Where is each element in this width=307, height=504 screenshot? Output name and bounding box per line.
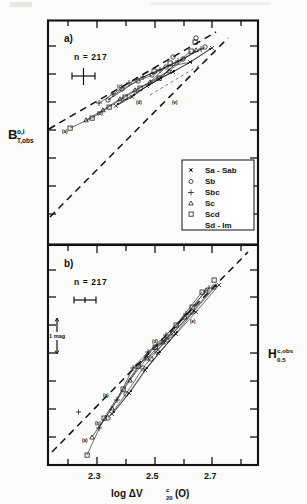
panel-b-right-ticks <box>250 270 258 437</box>
panel-a-ylabel-sup: o,i <box>17 128 25 136</box>
panel-a-label-a: (a) <box>62 129 68 134</box>
panel-a-ylabel: B o,i T,obs <box>8 127 34 145</box>
panel-b-point-labels: (a) (b) (c) (d) (e) <box>82 319 196 443</box>
panel-a-label-e: (e) <box>172 100 178 105</box>
scan-artifact <box>10 2 32 7</box>
panel-b-n-label: n = 217 <box>74 277 107 287</box>
legend-label-scd: Scd <box>205 210 220 219</box>
panel-a-upper-dashed-line <box>49 32 216 129</box>
x-axis-label-sub: 20 <box>166 495 173 501</box>
panel-b-left-ticks <box>48 270 56 437</box>
x-tick-label-3: 2.7 <box>204 471 217 481</box>
panel-b-ylabel-sup: c,obs <box>277 347 294 354</box>
panel-b-error-bar <box>74 297 96 304</box>
legend-label-sb: Sb <box>205 177 215 186</box>
panel-b-tag: b) <box>64 258 73 269</box>
panel-a-symbols <box>68 36 214 130</box>
panel-b-label-a: (a) <box>82 438 88 443</box>
panel-a-label-c: (c) <box>117 84 123 89</box>
legend-label-sa-sab: Sa - Sab <box>205 166 237 175</box>
legend-label-sc: Sc <box>205 199 215 208</box>
panel-b-mag-indicator: 1 mag <box>49 318 66 354</box>
panel-a-ylabel-main: B <box>8 127 17 142</box>
legend-label-sbc: Sbc <box>205 188 220 197</box>
panel-a-point-labels: (a) (b) (c) (d) (e) <box>62 84 178 134</box>
panel-a-label-d: (d) <box>136 100 142 105</box>
x-axis-label-sup: c <box>166 487 170 493</box>
panel-b-ylabel: H c,obs 0.5 <box>268 347 294 363</box>
panel-b-label-e: (e) <box>190 319 196 324</box>
legend-label-sd-im: Sd - Im <box>205 221 232 230</box>
panel-b-mag-label: 1 mag <box>49 333 66 339</box>
panel-a-ylabel-sub: T,obs <box>17 137 34 145</box>
scan-artifact-2 <box>150 2 270 5</box>
panel-a: a) n = 217 <box>8 21 258 245</box>
panel-a-label-b: (b) <box>97 111 103 116</box>
x-tick-label-2: 2.5 <box>146 471 159 481</box>
panel-a-tag: a) <box>64 33 73 44</box>
panel-b-label-d: (d) <box>152 339 158 344</box>
panel-b-ylabel-sub: 0.5 <box>277 356 286 363</box>
figure-canvas: a) n = 217 <box>0 0 307 504</box>
x-axis-label-main: log ΔV <box>111 488 143 499</box>
panel-a-n-label: n = 217 <box>74 52 107 62</box>
panel-a-error-cross <box>72 68 95 85</box>
panel-b-label-c: (c) <box>103 393 109 398</box>
legend: Sa - Sab Sb Sbc Sc Scd Sd - Im <box>182 160 254 230</box>
x-tick-label-1: 2.3 <box>88 471 101 481</box>
panel-b-label-b: (b) <box>95 421 101 426</box>
figure-root: a) n = 217 <box>0 0 307 504</box>
x-axis-label-tail: (O) <box>175 488 189 499</box>
x-axis: 2.3 2.5 2.7 log ΔV 20 c (O) <box>88 471 217 501</box>
x-axis-label: log ΔV 20 c (O) <box>111 487 189 501</box>
panel-b-ylabel-main: H <box>268 347 277 361</box>
panel-a-left-ticks <box>48 46 56 214</box>
panel-b-bottom-ticks <box>68 457 241 465</box>
panel-b-curves <box>87 285 219 455</box>
panel-a-top-ticks <box>68 21 241 29</box>
panel-b: b) n = 217 1 mag <box>48 245 294 465</box>
panel-b-top-ticks <box>68 245 241 253</box>
